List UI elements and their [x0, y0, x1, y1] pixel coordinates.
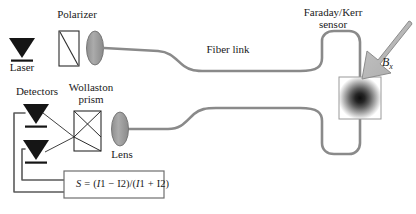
formula-den-close: ) [165, 178, 169, 189]
magnetic-field-label: Bx [382, 55, 393, 71]
formula-lhs: S [76, 178, 81, 189]
formula-plus: + [148, 178, 154, 189]
focusing-lens [112, 112, 129, 146]
sensor-label-line1: Faraday/Kerr [294, 7, 372, 19]
signal-formula-text: S=(I1−I2)/(I1+I2) [76, 178, 169, 189]
schematic-drawing [0, 0, 416, 214]
fiber-link-label: Fiber link [192, 44, 264, 56]
lens-label: Lens [101, 149, 143, 161]
prism-to-detector-rays [43, 113, 74, 152]
laser-label: Laser [2, 62, 42, 74]
sensor-label-line2: sensor [294, 19, 372, 31]
wollaston-prism-label-line2: prism [60, 94, 122, 106]
formula-i1a-num: 1 [100, 178, 105, 189]
polarizer-plate [59, 31, 79, 66]
b-field-subscript: x [389, 62, 393, 71]
schematic-figure: Polarizer Laser Detectors Wollaston pris… [0, 0, 416, 214]
fiber-link-lower [128, 108, 360, 154]
polarizer-label: Polarizer [42, 9, 112, 21]
faraday-kerr-sensor [339, 77, 381, 119]
formula-i1b-num: 1 [140, 178, 145, 189]
formula-minus: − [108, 178, 114, 189]
laser-source [9, 38, 35, 62]
collimating-lens [87, 31, 104, 65]
formula-equals: = [84, 178, 90, 189]
wollaston-prism-label-line1: Wollaston [60, 82, 122, 94]
detector-top [23, 104, 49, 128]
wollaston-prism [74, 111, 101, 151]
